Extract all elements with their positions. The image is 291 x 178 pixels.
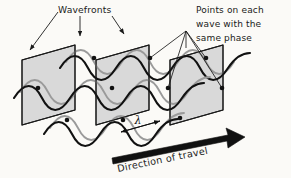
wave-line-front	[44, 119, 178, 146]
shadow-wave-front	[50, 113, 184, 140]
phase-dot	[178, 116, 183, 121]
wavefronts-leader-lines	[30, 12, 124, 50]
phase-label-line-3: same phase	[196, 33, 252, 43]
phase-label-line-2: wave with the	[196, 19, 262, 29]
wavefronts-diagram: λ Wavefronts Points on each wave with th…	[0, 0, 291, 178]
phase-dot	[121, 118, 126, 123]
phase-dot	[36, 86, 41, 91]
wave-row-front	[44, 113, 184, 146]
wavelength-label: λ	[134, 114, 142, 127]
diagram-canvas: λ Wavefronts Points on each wave with th…	[0, 0, 291, 178]
phase-dot	[92, 56, 97, 61]
leader-to-plane-3	[112, 16, 124, 34]
phase-dot	[65, 118, 70, 123]
phase-label-line-1: Points on each	[196, 5, 264, 15]
wavefronts-label: Wavefronts	[58, 4, 111, 15]
phase-dot	[110, 86, 115, 91]
leader-to-plane-1	[30, 12, 58, 50]
